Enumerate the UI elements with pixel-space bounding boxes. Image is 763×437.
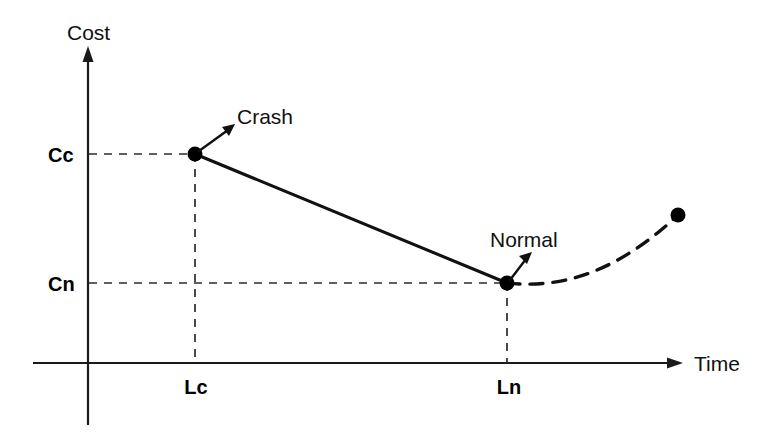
normal-annotation-label: Normal [490, 228, 558, 251]
crashing-cost-segment [195, 154, 507, 283]
crash-callout-leader [199, 130, 228, 151]
x-tick-label-lc: Lc [184, 376, 207, 398]
y-tick-label-cn: Cn [48, 273, 75, 295]
y-axis-arrowhead [83, 46, 94, 62]
x-tick-label-ln: Ln [497, 376, 521, 398]
x-axis-arrowhead [667, 358, 683, 369]
normal-callout-leader [510, 259, 526, 280]
normal-callout-arrowhead [519, 252, 532, 264]
callout-group [199, 124, 532, 280]
axis-group [33, 46, 683, 425]
x-axis-title: Time [694, 352, 740, 375]
y-axis-title: Cost [67, 21, 110, 44]
data-point-group [188, 147, 686, 291]
data-curve-group [195, 154, 678, 284]
chart-canvas: Cost Time Cc Cn Lc Ln Crash Normal [0, 0, 763, 437]
extended-point-marker [671, 208, 686, 223]
crash-annotation-label: Crash [237, 105, 293, 128]
time-cost-tradeoff-figure: Cost Time Cc Cn Lc Ln Crash Normal [0, 0, 763, 437]
y-tick-label-cc: Cc [48, 144, 74, 166]
